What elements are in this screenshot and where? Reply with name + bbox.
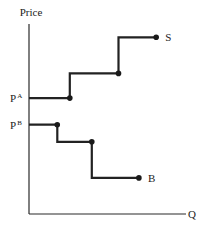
series-s-label: S: [165, 31, 171, 43]
series-s-marker-3: [153, 35, 159, 41]
series-b-marker-1: [54, 122, 60, 128]
series-b-marker-3: [136, 175, 142, 181]
price-level-base: P: [10, 119, 16, 131]
series-b-label: B: [148, 172, 155, 184]
series-s-marker-1: [67, 95, 73, 101]
price-level-label-b: PB: [10, 119, 22, 131]
series-b-line: [29, 125, 139, 178]
series-s-line: [29, 37, 156, 98]
price-level-label-a: PA: [10, 92, 22, 104]
price-level-superscript: A: [17, 92, 22, 100]
price-level-superscript: B: [17, 119, 22, 127]
chart: Price Q PAPB SB: [0, 0, 202, 227]
y-axis-label: Price: [20, 6, 43, 18]
price-level-base: P: [10, 92, 16, 104]
x-axis-label: Q: [188, 208, 196, 220]
series-s-marker-2: [116, 71, 122, 77]
series-b-marker-2: [89, 139, 95, 145]
